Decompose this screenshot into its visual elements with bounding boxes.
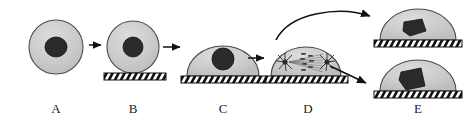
substrate: [266, 76, 348, 83]
substrate-hatch: [374, 91, 462, 98]
figure-canvas: A B C D E: [0, 0, 476, 129]
nucleus: [45, 37, 67, 57]
stage-label-d: D: [293, 101, 323, 117]
substrate-hatch: [266, 76, 348, 83]
arrow-curve: [276, 11, 370, 40]
substrate-hatch: [104, 73, 166, 80]
stage-e-daughter-cell-upper: [374, 9, 462, 47]
stage-a-round-detached-cell: [29, 20, 83, 74]
stage-b-attaching-round-cell: [104, 21, 166, 80]
nucleus: [212, 48, 234, 70]
stage-label-e: E: [403, 101, 433, 117]
stage-label-c: C: [208, 101, 238, 117]
stage-label-b: B: [118, 101, 148, 117]
substrate: [104, 73, 166, 80]
substrate: [374, 40, 462, 47]
substrate: [374, 91, 462, 98]
substrate-hatch: [374, 40, 462, 47]
substrate: [181, 76, 266, 83]
substrate-hatch: [181, 76, 266, 83]
nucleus: [123, 37, 143, 57]
stage-d-mitotic-cell: [266, 47, 348, 83]
arrow-d-to-e-upper: [276, 11, 370, 40]
stage-label-a: A: [41, 101, 71, 117]
stage-e-daughter-cell-lower: [374, 60, 462, 98]
stage-c-spread-cell: [181, 46, 266, 83]
